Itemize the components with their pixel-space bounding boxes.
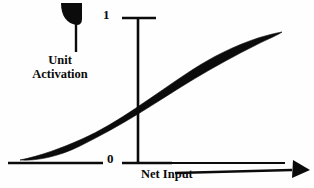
y-axis-label: Unit Activation	[18, 54, 102, 81]
x-axis-pointer-arrowhead-icon	[292, 160, 310, 178]
activation-band-curve	[20, 32, 282, 160]
figure-canvas	[0, 0, 314, 188]
x-axis-label: Net Input	[141, 168, 193, 182]
sigmoid-activation-figure: Unit Activation 1 0 Net Input	[0, 0, 314, 188]
y-axis-label-line1: Unit	[48, 53, 72, 67]
y-axis-tick-label-top: 1	[103, 8, 110, 22]
y-axis-label-line2: Activation	[18, 68, 102, 82]
y-axis-pointer-arrowhead-icon	[61, 3, 82, 25]
y-axis-tick-label-bottom: 0	[107, 152, 114, 166]
